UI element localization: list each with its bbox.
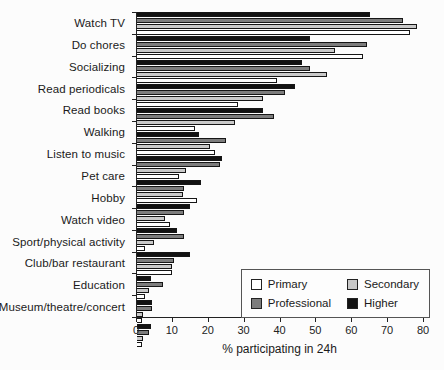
y-axis-tick bbox=[132, 186, 136, 187]
bar-primary bbox=[137, 126, 195, 131]
bar-professional bbox=[137, 138, 226, 143]
legend-swatch-icon bbox=[347, 298, 358, 309]
bar-group bbox=[137, 108, 423, 132]
bar-secondary bbox=[137, 312, 143, 317]
x-axis-tick bbox=[244, 318, 245, 322]
y-axis-tick bbox=[132, 252, 136, 253]
y-axis-tick bbox=[132, 34, 136, 35]
bar-primary bbox=[137, 30, 410, 35]
x-axis-tick bbox=[351, 318, 352, 322]
bar-secondary bbox=[137, 288, 149, 293]
legend-label: Professional bbox=[268, 297, 331, 309]
bar-group bbox=[137, 132, 423, 156]
category-label: Socializing bbox=[0, 56, 131, 78]
bar-professional bbox=[137, 186, 184, 191]
category-label: Club/bar restaurant bbox=[0, 252, 131, 274]
bar-professional bbox=[137, 306, 152, 311]
legend-label: Primary bbox=[268, 278, 308, 290]
y-axis-tick bbox=[132, 208, 136, 209]
bar-higher bbox=[137, 36, 310, 41]
bar-professional bbox=[137, 234, 184, 239]
bar-professional bbox=[137, 90, 285, 95]
legend-item-primary: Primary bbox=[251, 278, 331, 290]
bar-primary bbox=[137, 54, 363, 59]
bar-primary bbox=[137, 222, 170, 227]
category-label: Hobby bbox=[0, 187, 131, 209]
bar-professional bbox=[137, 162, 220, 167]
bar-higher bbox=[137, 156, 222, 161]
y-axis-tick bbox=[132, 143, 136, 144]
y-axis-tick bbox=[132, 121, 136, 122]
x-axis-tick bbox=[387, 318, 388, 322]
bar-group bbox=[137, 36, 423, 60]
legend-item-secondary: Secondary bbox=[347, 278, 419, 290]
bar-professional bbox=[137, 66, 310, 71]
y-axis-tick bbox=[132, 56, 136, 57]
bar-primary bbox=[137, 174, 179, 179]
x-axis-tick-label: 20 bbox=[202, 324, 214, 336]
category-label: Sport/physical activity bbox=[0, 231, 131, 253]
bar-secondary bbox=[137, 96, 263, 101]
bar-professional bbox=[137, 210, 184, 215]
category-label: Education bbox=[0, 274, 131, 296]
bar-group bbox=[137, 204, 423, 228]
bar-primary bbox=[137, 198, 197, 203]
bar-professional bbox=[137, 258, 174, 263]
bar-secondary bbox=[137, 192, 183, 197]
x-axis-tick bbox=[315, 318, 316, 322]
legend-swatch-icon bbox=[347, 279, 358, 290]
x-axis-tick bbox=[172, 318, 173, 322]
legend-swatch-icon bbox=[251, 279, 262, 290]
y-axis-tick bbox=[132, 165, 136, 166]
y-axis-tick bbox=[132, 77, 136, 78]
bar-secondary bbox=[137, 168, 186, 173]
bar-secondary bbox=[137, 24, 417, 29]
bar-higher bbox=[137, 12, 370, 17]
x-axis-tick-label: 80 bbox=[417, 324, 429, 336]
bar-secondary bbox=[137, 240, 154, 245]
x-axis-tick bbox=[280, 318, 281, 322]
x-axis-tick-label: 0 bbox=[133, 324, 139, 336]
bar-higher bbox=[137, 108, 263, 113]
x-axis-tick bbox=[423, 318, 424, 322]
legend-label: Secondary bbox=[364, 278, 419, 290]
category-axis: Watch TVDo choresSocializingRead periodi… bbox=[0, 12, 131, 318]
bar-higher bbox=[137, 252, 190, 257]
x-axis-tick-label: 60 bbox=[345, 324, 357, 336]
bar-chart-figure: Watch TVDo choresSocializingRead periodi… bbox=[0, 0, 444, 370]
bar-higher bbox=[137, 84, 295, 89]
legend-label: Higher bbox=[364, 297, 398, 309]
bar-group bbox=[137, 156, 423, 180]
bar-professional bbox=[137, 282, 163, 287]
bar-secondary bbox=[137, 144, 210, 149]
bar-group bbox=[137, 84, 423, 108]
bar-primary bbox=[137, 150, 215, 155]
bar-higher bbox=[137, 180, 201, 185]
bar-group bbox=[137, 180, 423, 204]
category-label: Read books bbox=[0, 99, 131, 121]
bar-secondary bbox=[137, 264, 172, 269]
x-axis-tick-label: 40 bbox=[273, 324, 285, 336]
category-label: Do chores bbox=[0, 34, 131, 56]
category-label: Watch video bbox=[0, 209, 131, 231]
legend-swatch-icon bbox=[251, 298, 262, 309]
y-axis-tick bbox=[132, 99, 136, 100]
category-label: Read periodicals bbox=[0, 78, 131, 100]
bar-higher bbox=[137, 132, 199, 137]
bar-primary bbox=[137, 102, 238, 107]
bar-higher bbox=[137, 300, 152, 305]
bar-secondary bbox=[137, 120, 235, 125]
bar-group bbox=[137, 12, 423, 36]
y-axis-tick bbox=[132, 230, 136, 231]
x-axis-title: % participating in 24h bbox=[136, 342, 423, 356]
y-axis-tick bbox=[132, 295, 136, 296]
category-label: Listen to music bbox=[0, 143, 131, 165]
bar-secondary bbox=[137, 216, 165, 221]
bar-higher bbox=[137, 60, 302, 65]
legend-item-higher: Higher bbox=[347, 297, 419, 309]
x-axis-tick-label: 50 bbox=[309, 324, 321, 336]
bar-primary bbox=[137, 246, 145, 251]
legend: PrimarySecondaryProfessionalHigher bbox=[241, 269, 430, 318]
category-label: Watch TV bbox=[0, 12, 131, 34]
legend-item-professional: Professional bbox=[251, 297, 331, 309]
